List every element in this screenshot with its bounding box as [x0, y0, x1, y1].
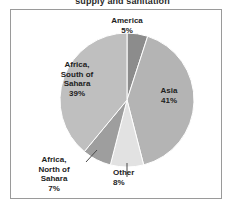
- slice-label-other-percent: 8%: [113, 178, 153, 188]
- slice-label-africa-south-percent: 39%: [44, 89, 110, 99]
- slice-label-america: America 5%: [84, 16, 170, 35]
- slice-label-africa-north-line1: Africa,: [42, 155, 67, 164]
- slice-label-africa-south-line2: South of: [61, 70, 93, 79]
- slice-label-america-name: America: [111, 16, 143, 25]
- slice-label-africa-north-line3: Sahara: [41, 174, 68, 183]
- slice-label-asia: Asia 41%: [146, 86, 192, 105]
- slice-label-america-percent: 5%: [84, 26, 170, 36]
- slice-label-africa-south-line3: Sahara: [64, 79, 91, 88]
- slice-label-other: Other 8%: [113, 168, 153, 187]
- slice-label-asia-percent: 41%: [146, 96, 192, 106]
- slice-label-africa-south-line1: Africa,: [65, 60, 90, 69]
- slice-label-africa-north-percent: 7%: [18, 184, 90, 194]
- slice-label-asia-name: Asia: [161, 86, 178, 95]
- slice-label-other-name: Other: [113, 168, 134, 177]
- slice-label-africa-north: Africa, North of Sahara 7%: [18, 155, 90, 193]
- chart-container: supply and sanitation America 5% Asia 41…: [0, 0, 245, 206]
- slice-label-africa-south: Africa, South of Sahara 39%: [44, 60, 110, 98]
- slice-label-africa-north-line2: North of: [38, 165, 69, 174]
